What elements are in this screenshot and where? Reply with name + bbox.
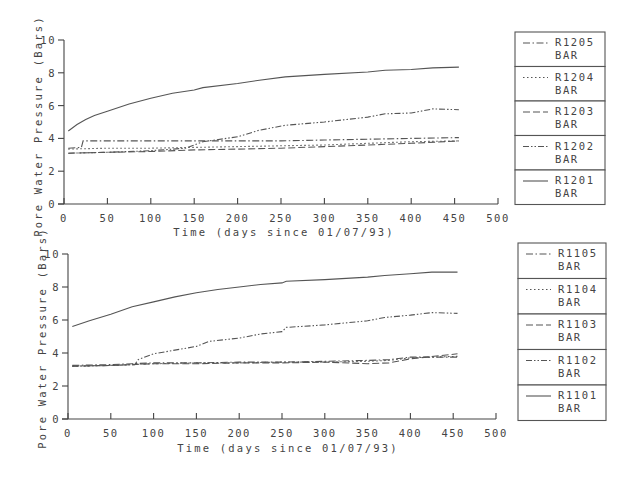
- x-tick-label: 0: [60, 212, 68, 224]
- x-tick-label: 300: [313, 212, 336, 224]
- series-line-r1201: [68, 67, 459, 131]
- y-tick-label: 6: [52, 314, 60, 326]
- legend-unit: BAR: [555, 49, 579, 61]
- legend-label: R1102: [558, 354, 598, 366]
- x-tick-label: 350: [356, 212, 379, 224]
- plot-area-bottom: 0246810050100150200250300350400450500: [44, 248, 507, 439]
- x-tick-label: 200: [227, 427, 250, 439]
- chart-panel-top: 0246810050100150200250300350400450500 Po…: [32, 15, 605, 238]
- legend-top: R1205BARR1204BARR1203BARR1202BARR1201BAR: [515, 32, 605, 205]
- legend-unit: BAR: [558, 331, 582, 343]
- x-tick-label: 50: [103, 427, 119, 439]
- y-tick-label: 2: [48, 165, 56, 177]
- legend-unit: BAR: [555, 84, 579, 96]
- legend-label: R1204: [555, 71, 595, 83]
- y-tick-label: 8: [52, 281, 60, 293]
- plot-area-top: 0246810050100150200250300350400450500: [40, 34, 509, 224]
- x-tick-label: 150: [185, 427, 208, 439]
- legend-label: R1203: [555, 105, 595, 117]
- x-tick-label: 200: [226, 212, 249, 224]
- x-tick-label: 300: [313, 427, 336, 439]
- x-tick-label: 400: [399, 212, 422, 224]
- x-tick-label: 450: [443, 212, 466, 224]
- x-tick-label: 500: [484, 427, 507, 439]
- legend-label: R1202: [555, 140, 595, 152]
- legend-unit: BAR: [558, 367, 582, 379]
- x-axis-title-top: Time (days since 01/07/93): [173, 226, 395, 238]
- x-axis-title-bottom: Time (days since 01/07/93): [177, 442, 399, 454]
- series-line-r1101: [72, 272, 457, 327]
- legend-unit: BAR: [555, 187, 579, 199]
- legend-unit: BAR: [555, 153, 579, 165]
- legend-label: R1101: [558, 389, 598, 401]
- y-tick-label: 4: [52, 347, 60, 359]
- x-tick-label: 250: [270, 427, 293, 439]
- series-line-r1204: [68, 141, 459, 149]
- series-line-r1105: [72, 357, 457, 365]
- x-tick-label: 0: [64, 427, 72, 439]
- y-tick-label: 0: [48, 198, 56, 210]
- legend-label: R1103: [558, 318, 598, 330]
- x-tick-label: 100: [139, 212, 162, 224]
- x-tick-label: 350: [356, 427, 379, 439]
- x-tick-label: 150: [182, 212, 205, 224]
- legend-bottom: R1105BARR1104BARR1103BARR1102BARR1101BAR: [518, 243, 606, 421]
- y-tick-label: 4: [48, 132, 56, 144]
- legend-label: R1201: [555, 174, 595, 186]
- x-tick-label: 450: [441, 427, 464, 439]
- legend-unit: BAR: [558, 402, 582, 414]
- legend-unit: BAR: [558, 260, 582, 272]
- legend-unit: BAR: [558, 296, 582, 308]
- series-line-r1202: [68, 109, 459, 153]
- series-line-r1205: [68, 138, 459, 149]
- chart-canvas: 0246810050100150200250300350400450500 Po…: [0, 0, 625, 478]
- y-tick-label: 6: [48, 100, 56, 112]
- y-tick-label: 2: [52, 380, 60, 392]
- y-axis-title-bottom: Pore Water Pressure (Bars): [36, 227, 48, 449]
- legend-label: R1104: [558, 283, 598, 295]
- series-line-r1203: [68, 141, 459, 153]
- legend-unit: BAR: [555, 118, 579, 130]
- y-tick-label: 0: [52, 413, 60, 425]
- chart-panel-bottom: 0246810050100150200250300350400450500 Po…: [36, 227, 606, 454]
- x-tick-label: 100: [142, 427, 165, 439]
- y-axis-title-top: Pore Water Pressure (Bars): [32, 15, 44, 237]
- legend-label: R1105: [558, 247, 598, 259]
- x-tick-label: 250: [269, 212, 292, 224]
- legend-label: R1205: [555, 36, 595, 48]
- x-tick-label: 50: [100, 212, 116, 224]
- x-tick-label: 400: [399, 427, 422, 439]
- x-tick-label: 500: [486, 212, 509, 224]
- y-tick-label: 8: [48, 67, 56, 79]
